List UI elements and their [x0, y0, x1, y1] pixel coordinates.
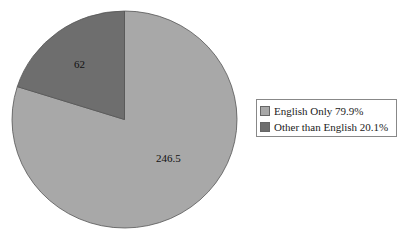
data-label-english: 246.5 [156, 152, 181, 164]
legend-label: English Only 79.9% [274, 105, 364, 117]
data-label-other: 62 [74, 58, 85, 70]
legend-label: Other than English 20.1% [274, 121, 388, 133]
legend-item-other-than-english: Other than English 20.1% [260, 119, 393, 135]
legend-swatch-english-only [260, 106, 270, 116]
legend: English Only 79.9% Other than English 20… [256, 99, 397, 137]
legend-item-english-only: English Only 79.9% [260, 103, 393, 119]
legend-swatch-other-than-english [260, 122, 270, 132]
